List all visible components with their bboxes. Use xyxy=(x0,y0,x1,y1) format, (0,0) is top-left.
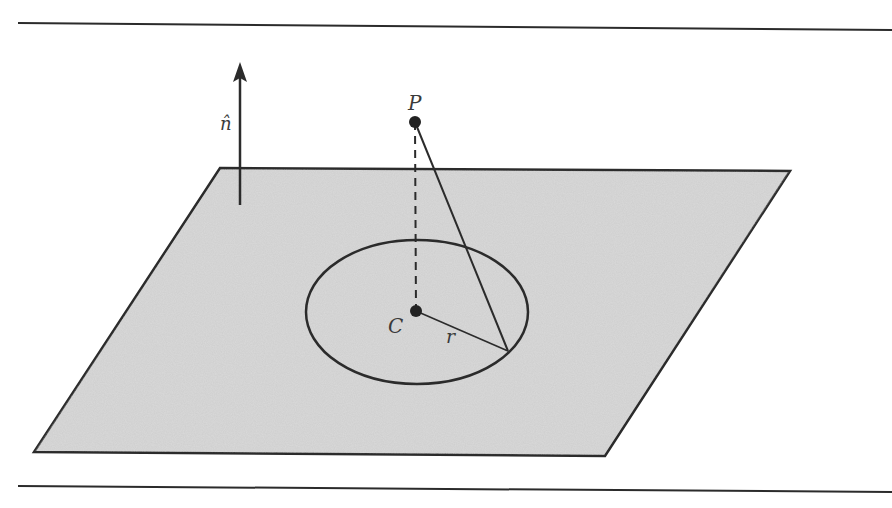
label-normal-n-hat: n̂ xyxy=(220,115,232,133)
diagram-figure xyxy=(0,0,892,508)
point-P-dot xyxy=(409,116,421,128)
top-rule xyxy=(18,23,892,30)
label-radius-r: r xyxy=(446,327,455,346)
label-point-P: P xyxy=(408,93,421,113)
bottom-rule xyxy=(18,486,892,492)
point-C-dot xyxy=(410,305,422,317)
label-center-C: C xyxy=(388,316,403,336)
